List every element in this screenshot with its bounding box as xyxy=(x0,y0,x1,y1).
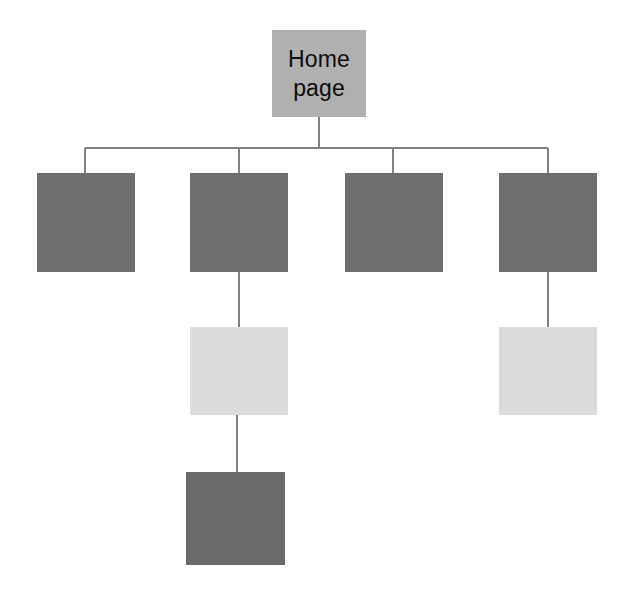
node-section-3[interactable] xyxy=(345,173,443,272)
node-subsection-4-1[interactable] xyxy=(499,327,597,415)
node-subsection-2-1[interactable] xyxy=(190,327,288,415)
node-section-4[interactable] xyxy=(499,173,597,272)
node-section-1[interactable] xyxy=(37,173,135,272)
site-map-diagram: Home page xyxy=(0,0,618,592)
node-section-2[interactable] xyxy=(190,173,288,272)
node-home-page-label: Home page xyxy=(284,45,354,101)
node-subsection-2-1-1[interactable] xyxy=(186,472,285,565)
node-home-page[interactable]: Home page xyxy=(272,30,366,117)
